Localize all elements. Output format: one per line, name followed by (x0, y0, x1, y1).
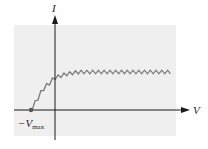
vmax-label-subscript: max (32, 123, 45, 131)
diagram-canvas: I V −Vmax (0, 0, 208, 149)
y-axis-arrow-icon (52, 15, 58, 24)
x-axis-label: V (193, 104, 201, 116)
x-axis-arrow-icon (181, 107, 190, 113)
vmax-label-main: −V (18, 117, 33, 129)
vmax-marker-dot (29, 108, 33, 112)
y-axis-label: I (51, 2, 57, 14)
plot-background-panel (14, 25, 176, 136)
